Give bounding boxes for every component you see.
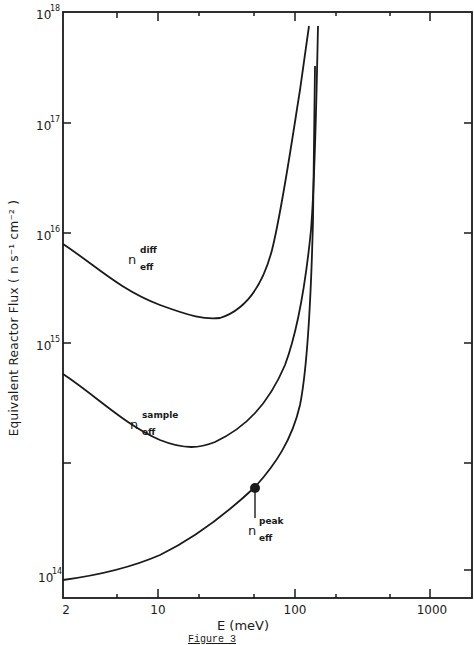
- curve-n-eff-sample: [63, 26, 318, 447]
- x-axis-ticks: [117, 12, 430, 598]
- y-tick-label-1e18: 10 18: [36, 4, 60, 22]
- svg-text:10: 10: [36, 339, 51, 353]
- svg-text:17: 17: [50, 115, 60, 124]
- svg-text:10: 10: [36, 229, 51, 243]
- svg-text:diff: diff: [140, 245, 158, 255]
- svg-text:eff: eff: [259, 533, 273, 543]
- svg-text:18: 18: [50, 4, 60, 13]
- curve-n-eff-peak: [63, 66, 315, 580]
- y-axis-label: Equivalent Reactor Flux ( n s⁻¹ cm⁻² ): [7, 200, 21, 437]
- plot-frame: [63, 12, 472, 598]
- flux-vs-energy-chart: 2 10 100 1000 10 18 10 17 10 16 10 15 10…: [0, 0, 474, 645]
- label-n-eff-diff: n diff eff: [128, 245, 158, 272]
- x-axis-label: E (meV): [217, 618, 269, 633]
- svg-text:10: 10: [36, 8, 51, 22]
- y-tick-label-1e15: 10 15: [36, 335, 60, 353]
- svg-text:16: 16: [50, 225, 60, 234]
- svg-text:peak: peak: [259, 516, 285, 526]
- svg-text:sample: sample: [142, 410, 178, 420]
- y-tick-label-1e16: 10 16: [36, 225, 60, 243]
- svg-text:n: n: [248, 523, 256, 538]
- x-tick-label: 1000: [417, 603, 448, 617]
- label-n-eff-sample: n sample eff: [130, 410, 178, 437]
- peak-marker: [250, 483, 260, 493]
- svg-text:n: n: [128, 252, 136, 267]
- x-tick-label: 2: [62, 603, 70, 617]
- label-n-eff-peak: n peak eff: [248, 516, 285, 543]
- figure-caption: Figure 3: [188, 634, 236, 645]
- svg-text:n: n: [130, 417, 138, 432]
- curve-n-eff-diff: [63, 26, 309, 318]
- y-tick-label-1e17: 10 17: [36, 115, 60, 133]
- svg-text:14: 14: [52, 567, 62, 576]
- svg-text:10: 10: [36, 119, 51, 133]
- x-tick-label: 100: [284, 603, 307, 617]
- svg-text:15: 15: [50, 335, 60, 344]
- y-tick-label-1e14: 10 14: [38, 567, 62, 585]
- svg-text:eff: eff: [140, 262, 154, 272]
- x-tick-label: 10: [150, 603, 165, 617]
- y-axis-ticks: [63, 123, 472, 570]
- svg-text:eff: eff: [142, 427, 156, 437]
- svg-text:10: 10: [38, 571, 53, 585]
